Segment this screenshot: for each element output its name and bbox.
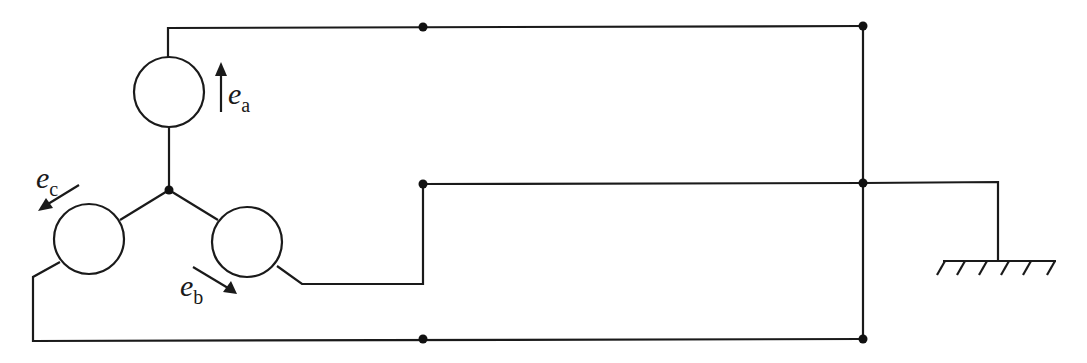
wire-neutral-to-b — [169, 190, 218, 220]
junction-dot — [419, 180, 428, 189]
wire-phase-c — [33, 262, 863, 341]
arrow-up-icon — [215, 62, 227, 112]
circuit-diagram: ea ec eb — [0, 0, 1087, 363]
generator-b — [212, 207, 282, 277]
generator-a — [134, 57, 204, 127]
neutral-node — [165, 186, 174, 195]
junction-dot — [859, 179, 868, 188]
ground-icon — [937, 261, 1055, 275]
junction-dot — [859, 335, 868, 344]
emf-label-a: ea — [228, 77, 250, 116]
wire-phase-b — [277, 183, 863, 284]
wire-to-ground — [863, 182, 998, 261]
emf-label-b: eb — [180, 269, 203, 308]
junction-dot — [419, 335, 428, 344]
generator-c — [54, 204, 124, 274]
wire-neutral-to-c — [120, 190, 169, 220]
junction-dot — [419, 23, 428, 32]
junction-dot — [859, 22, 868, 31]
emf-label-c: ec — [36, 161, 58, 200]
wire-phase-a — [168, 26, 863, 57]
